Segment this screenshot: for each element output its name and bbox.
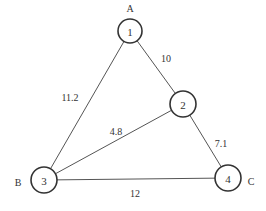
node-4: 4C — [215, 165, 255, 191]
node-number-label: 3 — [41, 175, 47, 187]
node-2: 2 — [170, 91, 196, 117]
edge-weight-label: 11.2 — [61, 92, 78, 103]
edge-weight-label: 4.8 — [110, 126, 123, 137]
node-number-label: 1 — [127, 26, 133, 38]
edge-1-3 — [44, 31, 130, 180]
node-1: 1A — [118, 3, 142, 44]
node-letter-label: A — [126, 3, 134, 14]
node-number-label: 4 — [225, 173, 231, 185]
graph-diagram: 1A23B4C 1011.24.87.112 — [0, 0, 266, 211]
edge-weight-label: 7.1 — [215, 138, 228, 149]
edges-layer — [44, 31, 228, 180]
node-letter-label: B — [15, 177, 22, 188]
nodes-layer: 1A23B4C — [15, 3, 255, 194]
node-number-label: 2 — [180, 99, 186, 111]
node-letter-label: C — [248, 176, 255, 187]
node-3: 3B — [15, 167, 57, 193]
edge-3-4 — [44, 178, 228, 180]
edge-weight-label: 12 — [130, 188, 140, 199]
edge-2-3 — [44, 104, 183, 180]
edge-weight-label: 10 — [161, 53, 171, 64]
